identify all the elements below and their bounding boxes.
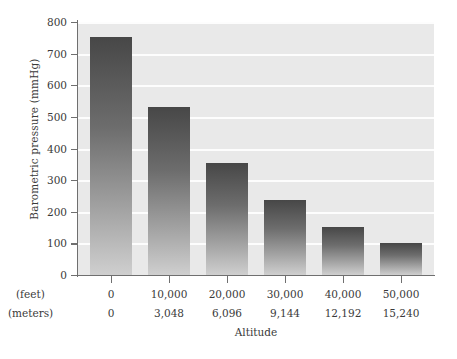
y-axis-line xyxy=(77,20,78,277)
x-axis-line xyxy=(77,275,435,276)
x-tick-label-feet: 50,000 xyxy=(364,288,438,300)
y-tick-mark xyxy=(71,212,77,213)
x-axis-title: Altitude xyxy=(78,326,434,338)
bar-altitude-30000 xyxy=(264,200,306,275)
y-tick-mark xyxy=(71,85,77,86)
plot-area xyxy=(78,22,434,275)
gridline xyxy=(78,22,434,24)
x-tick-mark xyxy=(169,276,170,283)
bar-altitude-50000 xyxy=(380,243,422,275)
y-tick-mark xyxy=(71,54,77,55)
bar-altitude-0 xyxy=(90,37,132,275)
y-tick-label: 600 xyxy=(7,79,67,91)
y-tick-mark xyxy=(71,22,77,23)
y-tick-label: 300 xyxy=(7,174,67,186)
y-tick-label: 0 xyxy=(7,269,67,281)
y-tick-mark xyxy=(71,117,77,118)
x-tick-mark xyxy=(343,276,344,283)
x-tick-mark xyxy=(111,276,112,283)
y-tick-label: 800 xyxy=(7,16,67,28)
y-tick-label: 100 xyxy=(7,237,67,249)
x-tick-label-meters: 15,240 xyxy=(364,307,438,319)
barometric-pressure-bar-chart: Barometric pressure (mmHg) 800 700 600 5… xyxy=(0,0,457,359)
y-tick-mark xyxy=(71,275,77,276)
x-tick-mark xyxy=(227,276,228,283)
y-tick-label: 400 xyxy=(7,143,67,155)
bar-altitude-40000 xyxy=(322,227,364,275)
y-tick-mark xyxy=(71,243,77,244)
x-tick-mark xyxy=(401,276,402,283)
bar-altitude-10000 xyxy=(148,107,190,275)
y-tick-mark xyxy=(71,149,77,150)
x-tick-mark xyxy=(285,276,286,283)
y-tick-mark xyxy=(71,180,77,181)
x-axis-row-label-meters: (meters) xyxy=(8,307,78,319)
y-tick-label: 700 xyxy=(7,48,67,60)
y-tick-label: 200 xyxy=(7,206,67,218)
y-tick-label: 500 xyxy=(7,111,67,123)
bar-altitude-20000 xyxy=(206,163,248,275)
